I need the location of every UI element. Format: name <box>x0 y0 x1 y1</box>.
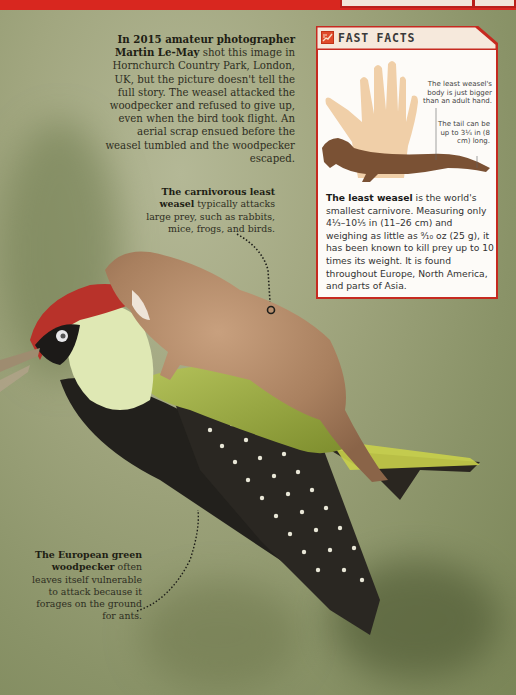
woodpecker-callout: The European green woodpecker often leav… <box>30 549 142 623</box>
fast-facts-body-text: is the world's smallest carnivore. Measu… <box>326 192 494 291</box>
body-size-note: The least weasel's body is just bigger t… <box>420 80 492 106</box>
fast-facts-text: The least weasel is the world's smallest… <box>326 192 494 293</box>
fast-facts-title: FAST FACTS <box>338 31 415 45</box>
intro-body: shot this image in Hornchurch Country Pa… <box>105 47 295 164</box>
weasel-callout: The carnivorous least weasel typically a… <box>140 186 275 235</box>
fast-facts-body: The least weasel's body is just bigger t… <box>316 50 498 299</box>
fast-facts-header: FAST FACTS <box>316 26 498 50</box>
intro-paragraph: In 2015 amateur photographer Martin Le-M… <box>100 33 295 165</box>
fast-facts-card: FAST FACTS The least weasel's body is ju… <box>316 26 498 299</box>
tail-length-note: The tail can be up to 3¼ in (8 cm) long. <box>430 120 490 146</box>
fast-facts-icon <box>321 31 334 44</box>
fast-facts-lead: The least weasel <box>326 192 413 203</box>
